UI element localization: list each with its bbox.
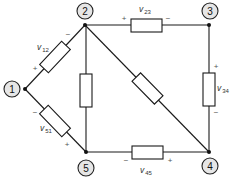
resistor-v23 bbox=[131, 19, 162, 32]
v51-minus: − bbox=[33, 108, 38, 117]
v45-plus: + bbox=[168, 156, 173, 165]
node-4-label: 4 bbox=[207, 161, 213, 172]
junction-5 bbox=[84, 150, 88, 154]
label-v12: v12 bbox=[37, 42, 50, 53]
node-5-label: 5 bbox=[83, 163, 89, 174]
v34-minus: − bbox=[214, 108, 219, 117]
label-v23: v23 bbox=[139, 4, 152, 15]
v12-plus: + bbox=[33, 64, 38, 73]
junction-4 bbox=[207, 150, 211, 154]
node-labels: 1 2 3 4 5 bbox=[4, 3, 218, 176]
label-v34: v34 bbox=[217, 83, 230, 94]
node-3: 3 bbox=[202, 3, 218, 19]
resistor-2-4 bbox=[132, 73, 163, 104]
circuit-diagram: 1 2 3 4 5 v12 v23 v34 v45 v51 + − + − bbox=[0, 0, 231, 179]
node-4: 4 bbox=[202, 158, 218, 174]
resistors bbox=[40, 19, 215, 159]
resistor-2-5 bbox=[80, 74, 92, 107]
junction-3 bbox=[207, 23, 211, 27]
resistor-v34 bbox=[203, 73, 215, 106]
v23-minus: − bbox=[166, 14, 171, 23]
v34-plus: + bbox=[214, 62, 219, 71]
label-v45: v45 bbox=[140, 165, 153, 176]
v51-plus: + bbox=[65, 140, 70, 149]
polarity-marks: + − + − + − + − + − bbox=[33, 14, 219, 165]
node-3-label: 3 bbox=[207, 6, 213, 17]
v23-plus: + bbox=[122, 14, 127, 23]
node-2: 2 bbox=[77, 3, 93, 19]
junction-2 bbox=[83, 23, 87, 27]
v12-minus: − bbox=[66, 30, 71, 39]
resistor-v12 bbox=[40, 41, 71, 73]
node-1-label: 1 bbox=[9, 84, 15, 95]
resistor-v45 bbox=[132, 146, 163, 159]
wires bbox=[25, 25, 209, 152]
node-2-label: 2 bbox=[82, 6, 88, 17]
junction-dots bbox=[23, 23, 211, 154]
v45-minus: − bbox=[124, 156, 129, 165]
node-1: 1 bbox=[4, 81, 20, 97]
junction-1 bbox=[23, 87, 27, 91]
node-5: 5 bbox=[78, 160, 94, 176]
